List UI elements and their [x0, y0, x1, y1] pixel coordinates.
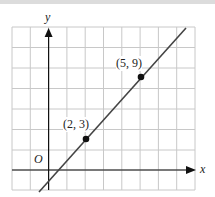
coordinate-plane — [0, 0, 215, 197]
point-5-9 — [138, 74, 145, 81]
line-graph — [39, 28, 186, 192]
point-label-2-3: (2, 3) — [63, 117, 89, 132]
y-arrow-icon — [45, 28, 53, 37]
y-axis-label: y — [45, 10, 50, 25]
point-label-5-9: (5, 9) — [116, 56, 142, 71]
point-2-3 — [83, 136, 90, 143]
origin-label: O — [34, 152, 43, 167]
x-axis-label: x — [200, 162, 205, 177]
